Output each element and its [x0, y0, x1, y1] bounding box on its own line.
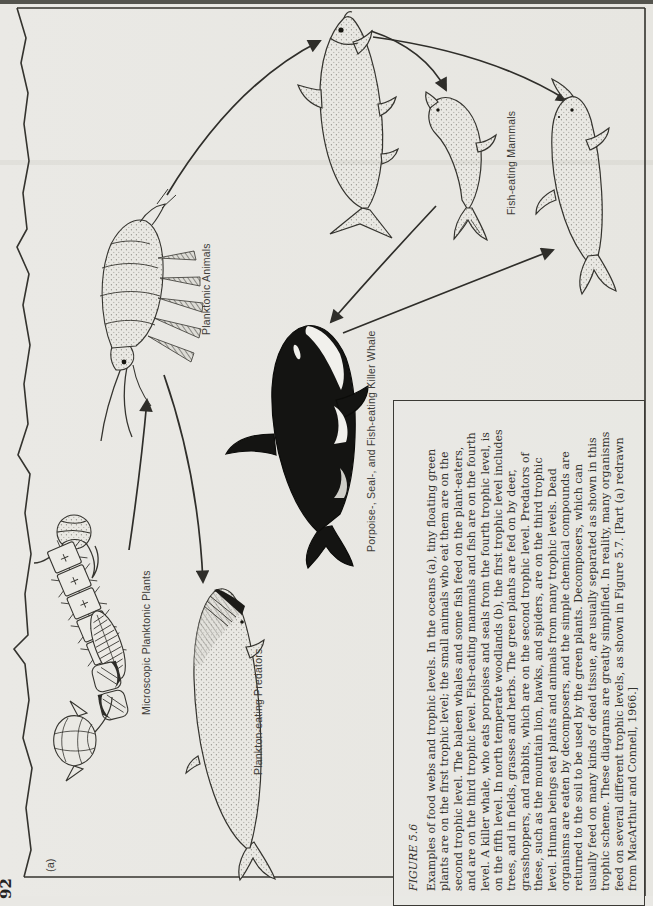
panel-label-a: (a) [44, 859, 56, 872]
label-plankton-eating-predators: Plankton-eating Predators [252, 649, 264, 775]
scan-streak [0, 160, 653, 165]
planktonic-plants-illustration [34, 515, 133, 781]
caption-line: organisms are eaten by decomposers, and … [559, 401, 572, 891]
caption-line: on the fifth level. In north temperate w… [492, 401, 505, 891]
caption-line: and are on the third trophic level. Fish… [465, 401, 478, 891]
fish-illustration [298, 12, 398, 238]
caption-line: returned to the soil to be used by the g… [572, 401, 585, 891]
scan-dark-edge [0, 0, 653, 4]
porpoise-illustration [536, 79, 616, 294]
caption-line: feed on several different trophic levels… [613, 401, 626, 891]
arrow-animals-to-baleen-whale [164, 375, 203, 582]
caption-line: second trophic level. The baleen whales … [452, 401, 465, 891]
figure-caption-box: FIGURE 5.6 Examples of food webs and tro… [393, 400, 645, 906]
caption-line: Examples of food webs and trophic levels… [425, 401, 438, 891]
torn-page-edge [14, 8, 32, 877]
label-planktonic-plants: Microscopic Planktonic Plants [140, 570, 152, 715]
arrow-fish-to-seal [371, 31, 446, 90]
figure-caption-heading: FIGURE 5.6 [407, 401, 420, 891]
page-number: 92 [0, 878, 15, 899]
caption-line: level. A killer whale, who eats porpoise… [479, 401, 492, 891]
seal-illustration [426, 92, 496, 240]
arrow-killer-whale-porpoise [343, 250, 553, 333]
arrow-plants-to-animals [129, 400, 147, 550]
caption-line: grasshoppers, and rabbits, which are on … [519, 401, 532, 891]
killer-whale-illustration [226, 326, 368, 568]
label-killer-whale: Porpoise-, Seal-, and Fish-eating Killer… [365, 330, 377, 552]
caption-line: trees, and in fields, grasses and herbs.… [505, 401, 518, 891]
copepod-illustration [100, 189, 203, 441]
caption-line: usually feed on many kinds of dead tissu… [586, 401, 599, 891]
label-planktonic-animals: Planktonic Animals [200, 243, 212, 335]
caption-line: level. Human beings eat plants and anima… [546, 401, 559, 891]
caption-line: from MacArthur and Connell, 1966.] [626, 401, 639, 891]
caption-line: plants are on the first trophic level; t… [438, 401, 451, 891]
caption-line: trophic scheme. These diagrams are great… [599, 401, 612, 891]
caption-line: these, such as the mountain lion, hawks,… [532, 401, 545, 891]
arrow-fish-to-porpoise [373, 37, 568, 101]
arrow-animals-to-fish [167, 41, 320, 195]
